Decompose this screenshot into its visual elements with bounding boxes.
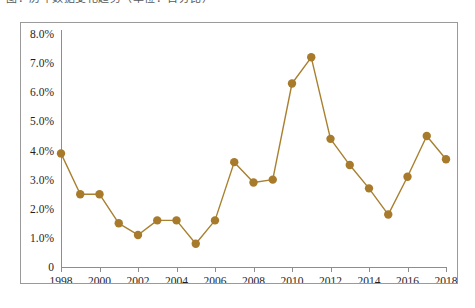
data-point-marker xyxy=(423,132,431,140)
y-axis-tick-label: 2.0% xyxy=(30,203,54,215)
x-axis-tick-label: 2008 xyxy=(242,275,265,283)
x-axis-tick-label: 2006 xyxy=(204,275,227,283)
data-point-marker xyxy=(346,161,354,169)
data-point-marker xyxy=(249,178,257,186)
y-axis-tick-label: 6.0% xyxy=(30,86,54,98)
y-axis-tick-label: 8.0% xyxy=(30,28,54,40)
x-axis-tick-label: 2002 xyxy=(127,275,150,283)
y-axis-tick-label: 3.0% xyxy=(30,174,54,186)
data-point-marker xyxy=(442,155,450,163)
data-point-marker xyxy=(172,216,180,224)
x-axis-tick-label: 2012 xyxy=(319,275,342,283)
y-axis-tick-label: 1.0% xyxy=(30,232,54,244)
x-axis-tick-label: 2014 xyxy=(358,275,381,283)
data-point-marker xyxy=(115,219,123,227)
data-point-marker xyxy=(384,210,392,218)
data-point-marker xyxy=(57,149,65,157)
figure-caption: 图：历年数据变化趋势（单位：百分比） xyxy=(0,0,475,5)
chart-frame: 01.0%2.0%3.0%4.0%5.0%6.0%7.0%8.0%1998200… xyxy=(20,22,458,284)
y-axis-tick-label: 4.0% xyxy=(30,145,54,157)
data-point-marker xyxy=(76,190,84,198)
data-point-marker xyxy=(192,240,200,248)
y-axis-tick-label: 5.0% xyxy=(30,115,54,127)
data-point-marker xyxy=(134,231,142,239)
line-chart: 01.0%2.0%3.0%4.0%5.0%6.0%7.0%8.0%1998200… xyxy=(21,23,457,283)
data-point-marker xyxy=(326,135,334,143)
data-point-marker xyxy=(365,184,373,192)
x-axis-tick-label: 2004 xyxy=(165,275,188,283)
data-point-marker xyxy=(211,216,219,224)
data-point-marker xyxy=(95,190,103,198)
x-axis-tick-label: 2010 xyxy=(281,275,304,283)
x-axis-tick-label: 2018 xyxy=(435,275,458,283)
data-point-marker xyxy=(307,53,315,61)
x-axis-tick-label: 2016 xyxy=(396,275,419,283)
x-axis-tick-label: 1998 xyxy=(50,275,73,283)
data-point-marker xyxy=(269,175,277,183)
x-axis-tick-label: 2000 xyxy=(88,275,111,283)
y-axis-tick-label: 0 xyxy=(48,261,54,273)
data-point-marker xyxy=(288,79,296,87)
data-point-marker xyxy=(153,216,161,224)
data-point-marker xyxy=(230,158,238,166)
data-point-marker xyxy=(403,173,411,181)
y-axis-tick-label: 7.0% xyxy=(30,57,54,69)
